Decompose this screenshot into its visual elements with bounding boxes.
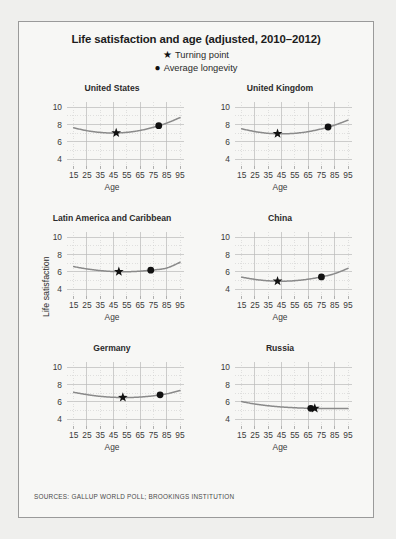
- marker-average-longevity-latin-america-and-caribbean: [147, 267, 154, 274]
- svg-text:25: 25: [82, 170, 92, 180]
- svg-text:35: 35: [264, 170, 274, 180]
- svg-text:10: 10: [221, 102, 231, 112]
- plot-area-germany: 46810152535455565758595: [37, 356, 187, 448]
- axis-label-x-latin-america-and-caribbean: Age: [37, 312, 187, 322]
- axis-label-x-germany: Age: [37, 442, 187, 452]
- svg-text:55: 55: [290, 430, 300, 440]
- svg-text:65: 65: [303, 170, 313, 180]
- marker-turning-point-germany: [118, 392, 128, 401]
- circle-icon: ●: [155, 62, 161, 73]
- svg-text:95: 95: [343, 430, 353, 440]
- svg-text:6: 6: [225, 137, 230, 147]
- svg-text:55: 55: [122, 300, 132, 310]
- svg-text:25: 25: [250, 170, 260, 180]
- marker-turning-point-china: [273, 276, 283, 285]
- legend-label-average-longevity: Average longevity: [164, 63, 238, 73]
- svg-text:35: 35: [96, 170, 106, 180]
- svg-text:45: 45: [277, 430, 287, 440]
- svg-text:6: 6: [225, 267, 230, 277]
- svg-text:75: 75: [149, 300, 159, 310]
- svg-text:8: 8: [57, 120, 62, 130]
- svg-text:85: 85: [162, 430, 172, 440]
- svg-text:25: 25: [250, 430, 260, 440]
- svg-text:75: 75: [317, 430, 327, 440]
- svg-text:85: 85: [330, 430, 340, 440]
- svg-text:6: 6: [225, 397, 230, 407]
- svg-text:65: 65: [303, 300, 313, 310]
- marker-average-longevity-china: [318, 273, 325, 280]
- svg-text:45: 45: [109, 170, 119, 180]
- svg-text:15: 15: [69, 300, 79, 310]
- curve-russia: [242, 402, 348, 409]
- svg-text:65: 65: [135, 170, 145, 180]
- svg-text:65: 65: [135, 430, 145, 440]
- svg-text:45: 45: [277, 300, 287, 310]
- star-icon: ★: [163, 49, 172, 60]
- chart-title: Life satisfaction and age (adjusted, 201…: [19, 33, 373, 45]
- marker-turning-point-united-kingdom: [273, 129, 283, 138]
- svg-text:8: 8: [225, 250, 230, 260]
- svg-text:6: 6: [57, 267, 62, 277]
- panel-title-china: China: [205, 213, 355, 223]
- axis-label-x-united-kingdom: Age: [205, 182, 355, 192]
- panel-united-states: United States46810152535455565758595Age: [37, 83, 187, 211]
- panel-title-germany: Germany: [37, 343, 187, 353]
- marker-turning-point-latin-america-and-caribbean: [114, 266, 124, 275]
- svg-text:35: 35: [264, 430, 274, 440]
- svg-text:75: 75: [317, 170, 327, 180]
- chart-figure: Life satisfaction and age (adjusted, 201…: [18, 21, 374, 518]
- svg-text:55: 55: [122, 430, 132, 440]
- svg-text:95: 95: [175, 170, 185, 180]
- plot-area-united-kingdom: 46810152535455565758595: [205, 96, 355, 188]
- svg-text:15: 15: [237, 170, 247, 180]
- plot-area-latin-america-and-caribbean: 46810152535455565758595: [37, 226, 187, 318]
- marker-average-longevity-germany: [157, 391, 164, 398]
- svg-text:4: 4: [57, 414, 62, 424]
- svg-text:15: 15: [69, 170, 79, 180]
- svg-text:35: 35: [96, 430, 106, 440]
- legend-label-turning-point: Turning point: [175, 50, 229, 60]
- svg-text:55: 55: [122, 170, 132, 180]
- svg-text:4: 4: [225, 284, 230, 294]
- svg-text:15: 15: [69, 430, 79, 440]
- svg-text:95: 95: [175, 430, 185, 440]
- svg-text:10: 10: [221, 362, 231, 372]
- marker-average-longevity-united-kingdom: [325, 124, 332, 131]
- svg-text:95: 95: [343, 170, 353, 180]
- svg-text:8: 8: [57, 250, 62, 260]
- panel-russia: Russia46810152535455565758595Age: [205, 343, 355, 471]
- svg-text:25: 25: [82, 300, 92, 310]
- plot-area-russia: 46810152535455565758595: [205, 356, 355, 448]
- svg-text:45: 45: [277, 170, 287, 180]
- svg-text:35: 35: [264, 300, 274, 310]
- panel-germany: Germany46810152535455565758595Age: [37, 343, 187, 471]
- svg-text:75: 75: [317, 300, 327, 310]
- svg-text:75: 75: [149, 430, 159, 440]
- svg-text:45: 45: [109, 430, 119, 440]
- svg-text:25: 25: [82, 430, 92, 440]
- svg-text:4: 4: [225, 414, 230, 424]
- svg-text:8: 8: [57, 380, 62, 390]
- legend-item-average-longevity: ●Average longevity: [19, 62, 373, 75]
- svg-text:6: 6: [57, 137, 62, 147]
- svg-text:4: 4: [225, 154, 230, 164]
- svg-text:65: 65: [303, 430, 313, 440]
- source-note: SOURCES: GALLUP WORLD POLL; BROOKINGS IN…: [34, 493, 234, 500]
- svg-text:85: 85: [330, 300, 340, 310]
- svg-text:10: 10: [53, 102, 63, 112]
- panel-china: China46810152535455565758595Age: [205, 213, 355, 341]
- svg-text:10: 10: [53, 232, 63, 242]
- svg-text:45: 45: [109, 300, 119, 310]
- svg-text:8: 8: [225, 120, 230, 130]
- marker-average-longevity-united-states: [155, 122, 162, 129]
- panel-united-kingdom: United Kingdom46810152535455565758595Age: [205, 83, 355, 211]
- svg-text:85: 85: [162, 170, 172, 180]
- svg-text:55: 55: [290, 300, 300, 310]
- panel-title-united-kingdom: United Kingdom: [205, 83, 355, 93]
- legend: ★Turning point ●Average longevity: [19, 49, 373, 74]
- svg-text:10: 10: [53, 362, 63, 372]
- svg-text:15: 15: [237, 430, 247, 440]
- svg-text:10: 10: [221, 232, 231, 242]
- marker-turning-point-united-states: [111, 128, 121, 137]
- panel-latin-america-and-caribbean: Latin America and Caribbean4681015253545…: [37, 213, 187, 341]
